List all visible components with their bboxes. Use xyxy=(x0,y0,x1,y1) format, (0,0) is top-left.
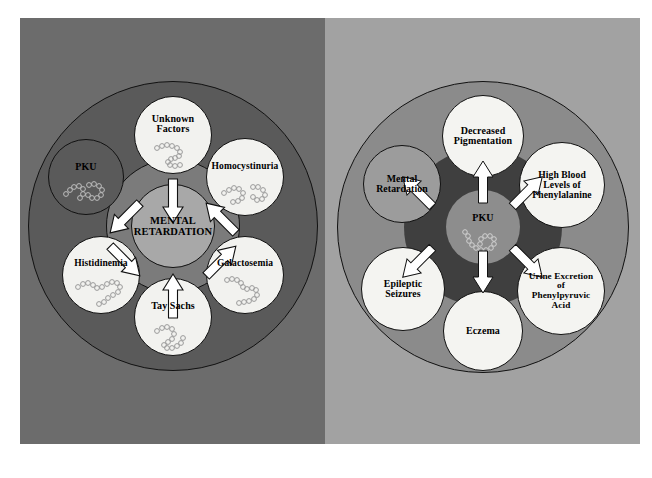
right-node-urine-excretion-line4: Acid xyxy=(552,301,571,311)
arrow-unknown-factors-to-center xyxy=(162,178,184,224)
arrow-galactosemia-to-center xyxy=(197,237,245,285)
right-node-decreased-pigmentation-line1: Decreased xyxy=(461,126,506,137)
right-node-eczema-label: Eczema xyxy=(466,326,500,337)
right-node-urine-excretion-line3: Phenylpyruvic xyxy=(532,291,590,301)
arrow-homocystinuria-to-center xyxy=(197,194,245,242)
figure-canvas: MENTAL RETARDATION Unknown Factors xyxy=(0,0,652,478)
right-node-eczema[interactable]: Eczema xyxy=(443,291,523,371)
left-node-unknown-factors-line1: Unknown xyxy=(152,114,194,125)
arrow-pku-to-high-blood-levels xyxy=(501,168,551,218)
arrow-tay-sachs-to-center xyxy=(162,273,184,319)
arrow-pku-to-mental-retardation xyxy=(394,168,444,218)
arrow-pku-to-decreased-pigmentation xyxy=(472,160,494,204)
arrow-pku-to-eczema xyxy=(472,250,494,294)
left-node-unknown-factors-line2: Factors xyxy=(157,124,190,135)
arrow-pku-to-epileptic-seizures xyxy=(394,236,444,286)
left-node-pku-label: PKU xyxy=(75,162,96,173)
right-node-epileptic-seizures-line2: Seizures xyxy=(385,289,420,299)
dna-chain-icon xyxy=(151,319,199,351)
panel-causes-of-mental-retardation: MENTAL RETARDATION Unknown Factors xyxy=(20,18,325,444)
left-node-homocystinuria-label: Homocystinuria xyxy=(212,162,279,172)
dna-chain-icon xyxy=(151,139,199,169)
arrow-histidinemia-to-center xyxy=(101,237,149,285)
right-node-urine-excretion-line2: of xyxy=(557,281,565,291)
panel-effects-of-pku: PKU Decreased Pigmentation xyxy=(325,18,640,444)
arrow-pku-to-urine-excretion xyxy=(501,236,551,286)
right-center-label: PKU xyxy=(472,213,493,224)
right-node-decreased-pigmentation-line2: Pigmentation xyxy=(454,136,512,147)
arrow-pku-to-center xyxy=(101,194,149,242)
left-node-unknown-factors[interactable]: Unknown Factors xyxy=(134,96,212,174)
